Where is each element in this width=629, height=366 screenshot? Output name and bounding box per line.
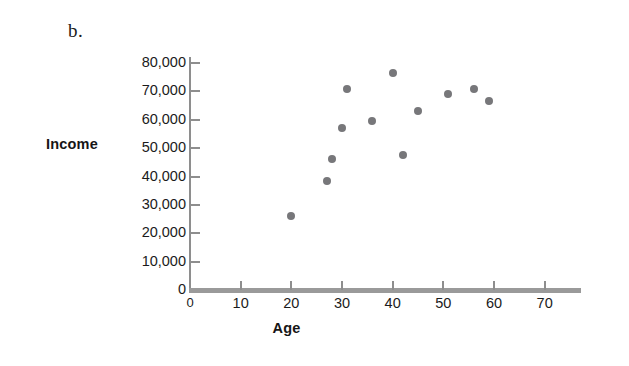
data-point (444, 90, 452, 98)
x-axis-tick-label: 0 (186, 296, 193, 309)
x-axis-title: Age (0, 320, 629, 336)
x-axis-tick-label: 60 (486, 296, 502, 311)
y-axis-tick-label: 10,000 (142, 254, 191, 269)
data-point (368, 117, 376, 125)
x-axis-tick-label: 70 (537, 296, 553, 311)
y-axis-tick-label: 20,000 (142, 225, 191, 240)
data-point (287, 212, 295, 220)
data-point (328, 155, 336, 163)
plot-area (190, 58, 570, 291)
scatter-plot-figure: b. Income 010,00020,00030,00040,00050,00… (0, 0, 629, 366)
x-axis-tick-label: 20 (283, 296, 299, 311)
y-axis-title: Income (46, 136, 98, 152)
data-point (343, 85, 351, 93)
x-axis-title-text: Age (273, 320, 301, 336)
y-axis-tick-label: 40,000 (142, 169, 191, 184)
x-axis-tick-label: 40 (385, 296, 401, 311)
x-axis-tick-label: 50 (435, 296, 451, 311)
data-point (323, 177, 331, 185)
y-axis-tick-label: 30,000 (142, 197, 191, 212)
panel-label: b. (68, 20, 83, 42)
data-point (414, 107, 422, 115)
y-axis-tick-label: 70,000 (142, 83, 191, 98)
data-point (470, 85, 478, 93)
data-point (338, 124, 346, 132)
data-point (399, 151, 407, 159)
x-axis-tick-label: 30 (334, 296, 350, 311)
data-point (389, 69, 397, 77)
x-axis-tick-label: 10 (233, 296, 249, 311)
y-axis-tick-label: 50,000 (142, 140, 191, 155)
data-point (485, 97, 493, 105)
y-axis-tick-label: 80,000 (142, 55, 191, 70)
y-axis-tick-label: 60,000 (142, 112, 191, 127)
